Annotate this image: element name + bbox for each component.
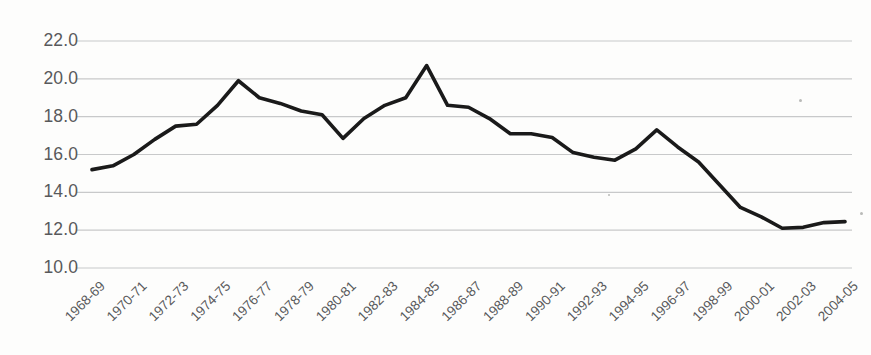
- x-axis-tick-label: 1978-79: [272, 279, 317, 324]
- x-axis-tick-label: 1998-99: [690, 279, 735, 324]
- scan-speck: [860, 212, 863, 215]
- x-axis-tick-label: 1980-81: [314, 279, 359, 324]
- x-axis-tick-label: 1974-75: [188, 279, 233, 324]
- x-axis-tick-label: 2004-05: [816, 279, 861, 324]
- x-axis-tick-label: 1982-83: [356, 279, 401, 324]
- x-axis: 1968-691970-711972-731974-751976-771978-…: [0, 0, 871, 355]
- x-axis-tick-label: 1990-91: [523, 279, 568, 324]
- x-axis-tick-label: 1972-73: [146, 279, 191, 324]
- scan-speck: [608, 194, 610, 196]
- line-chart: 22.020.018.016.014.012.010.0 1968-691970…: [0, 0, 871, 355]
- x-axis-tick-label: 1970-71: [105, 279, 150, 324]
- x-axis-tick-label: 1968-69: [63, 279, 108, 324]
- scan-speck: [799, 99, 802, 102]
- x-axis-tick-label: 1994-95: [607, 279, 652, 324]
- x-axis-tick-label: 2002-03: [774, 279, 819, 324]
- x-axis-tick-label: 1986-87: [439, 279, 484, 324]
- x-axis-tick-label: 1996-97: [648, 279, 693, 324]
- x-axis-tick-label: 1988-89: [481, 279, 526, 324]
- x-axis-tick-label: 1992-93: [565, 279, 610, 324]
- x-axis-tick-label: 1984-85: [397, 279, 442, 324]
- x-axis-tick-label: 2000-01: [732, 279, 777, 324]
- x-axis-tick-label: 1976-77: [230, 279, 275, 324]
